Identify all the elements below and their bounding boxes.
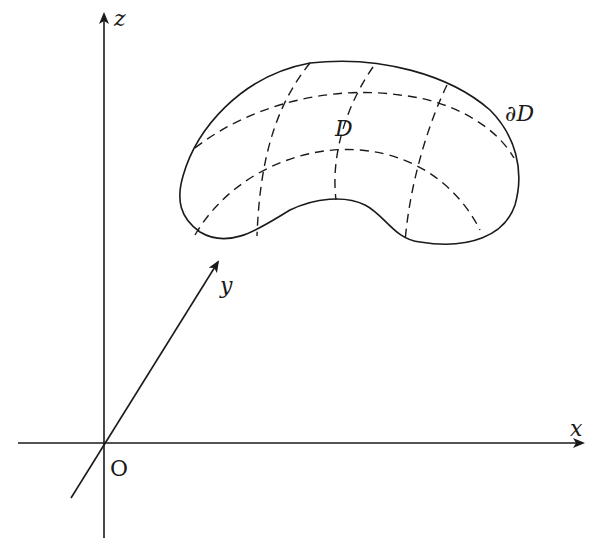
surface-label: D bbox=[335, 118, 353, 140]
origin-label: O bbox=[110, 458, 128, 480]
x-axis-label: x bbox=[570, 418, 582, 440]
surface-grid bbox=[195, 63, 514, 242]
boundary-label: ∂D bbox=[505, 103, 534, 125]
y-axis-label: y bbox=[220, 275, 232, 297]
surface-boundary bbox=[180, 61, 519, 244]
z-axis-label: z bbox=[114, 8, 126, 30]
diagram-canvas bbox=[0, 0, 593, 555]
y-axis bbox=[71, 262, 218, 498]
